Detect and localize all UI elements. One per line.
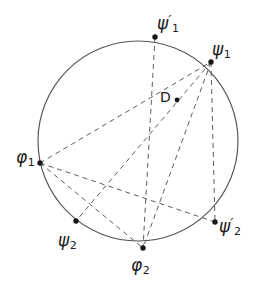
chord-phi1-phi2 (40, 163, 143, 248)
vertex-dot-phi1 (37, 160, 42, 165)
label-base-phi2: φ (131, 255, 142, 275)
point-label-phi1: φ1 (16, 149, 35, 168)
label-subscript-psi1prime: 1 (171, 22, 179, 35)
label-subscript-phi1: 1 (27, 156, 35, 169)
chord-psi1-psi2 (76, 62, 211, 221)
point-label-psi2prime: ψ′2 (219, 216, 241, 237)
vertex-dot-D (175, 98, 180, 103)
point-label-psi1prime: ψ′1 (157, 13, 179, 34)
label-subscript-psi2: 2 (69, 239, 77, 252)
point-label-psi1: ψ1 (212, 41, 231, 60)
point-label-D: D (160, 90, 171, 104)
geometry-figure: ψ′1ψ1φ1ψ2φ2ψ′2D (0, 0, 260, 286)
vertex-dot-psi2 (73, 218, 78, 223)
vertex-dot-psi1prime (152, 34, 157, 39)
chord-phi1-psi1 (40, 62, 211, 163)
label-subscript-phi2: 2 (142, 264, 150, 277)
vertex-dot-phi2 (140, 245, 145, 250)
label-base-phi1: φ (16, 147, 27, 167)
label-base-D: D (160, 89, 171, 105)
chord-psi1-phi2 (143, 62, 211, 248)
label-base-psi1: ψ (212, 39, 223, 59)
chord-psi1prime-phi2 (143, 37, 155, 248)
label-subscript-psi1: 1 (223, 48, 231, 61)
chord-psi1-psi2prime (211, 62, 215, 222)
label-base-psi2prime: ψ (219, 216, 230, 236)
point-label-phi2: φ2 (131, 257, 150, 276)
vertex-dot-psi2prime (212, 219, 217, 224)
chord-phi1-psi2prime (40, 163, 215, 222)
label-subscript-psi2prime: 2 (233, 225, 241, 238)
vertex-dot-group (37, 34, 217, 250)
point-label-psi2: ψ2 (58, 232, 77, 251)
label-base-psi1prime: ψ (157, 13, 168, 33)
chord-group (40, 37, 215, 248)
label-base-psi2: ψ (58, 230, 69, 250)
